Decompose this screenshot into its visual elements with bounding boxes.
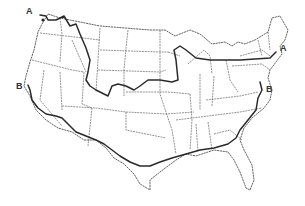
route-a-west-dot bbox=[41, 18, 44, 21]
route-b-west-label: B bbox=[16, 82, 23, 91]
route-a-east-label: A bbox=[280, 44, 287, 53]
state-borders bbox=[32, 18, 270, 154]
route-b-east-label: B bbox=[266, 85, 273, 94]
route-b-line bbox=[28, 82, 262, 166]
route-a-west-label: A bbox=[26, 7, 33, 16]
us-map bbox=[0, 0, 305, 206]
